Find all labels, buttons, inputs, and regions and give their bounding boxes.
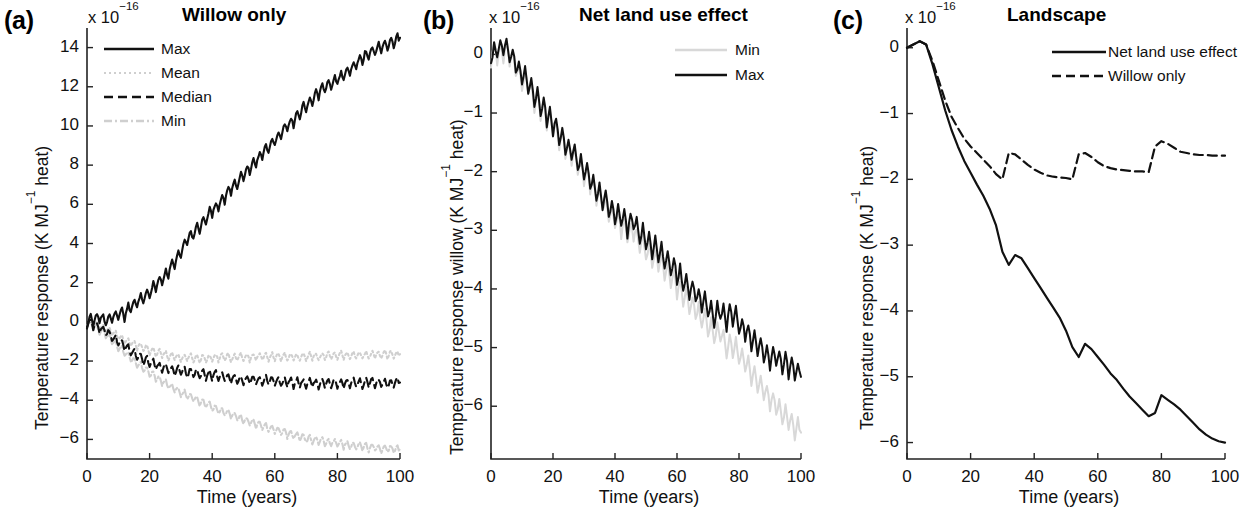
panel-b-exponent: x 10−16 bbox=[489, 6, 540, 27]
x-tick-label: 40 bbox=[1004, 467, 1064, 487]
panel-b-plot bbox=[491, 28, 801, 459]
panel-b-title: Net land use effect bbox=[579, 4, 748, 26]
panel-b-letter: (b) bbox=[423, 6, 454, 35]
panel-c-xlabel: Time (years) bbox=[919, 487, 1219, 508]
y-tick-label: −4 bbox=[35, 389, 79, 409]
y-tick-label: 0 bbox=[35, 311, 79, 331]
x-tick-label: 60 bbox=[647, 467, 707, 487]
x-tick-label: 80 bbox=[307, 467, 367, 487]
panel-c-title: Landscape bbox=[1007, 4, 1106, 26]
x-tick-label: 20 bbox=[941, 467, 1001, 487]
y-tick-label: 10 bbox=[35, 115, 79, 135]
y-tick-label: −5 bbox=[855, 366, 899, 386]
x-tick-label: 0 bbox=[877, 467, 937, 487]
y-tick-label: −2 bbox=[855, 168, 899, 188]
y-tick-label: −1 bbox=[855, 103, 899, 123]
axis-spine bbox=[87, 28, 400, 459]
axis-spine bbox=[907, 28, 1225, 459]
y-tick-label: −1 bbox=[439, 102, 483, 122]
panel-c-plot bbox=[907, 28, 1225, 459]
x-tick-label: 40 bbox=[182, 467, 242, 487]
y-tick-label: 8 bbox=[35, 154, 79, 174]
panel-c-letter: (c) bbox=[833, 6, 863, 35]
y-tick-label: −6 bbox=[855, 432, 899, 452]
x-tick-label: 80 bbox=[709, 467, 769, 487]
panel-a: (a) x 10−16 Willow only Temperature resp… bbox=[0, 0, 420, 525]
x-tick-label: 100 bbox=[1195, 467, 1249, 487]
y-tick-label: 6 bbox=[35, 193, 79, 213]
y-tick-label: 12 bbox=[35, 76, 79, 96]
figure-container: (a) x 10−16 Willow only Temperature resp… bbox=[0, 0, 1249, 525]
panel-a-xlabel: Time (years) bbox=[102, 487, 392, 508]
y-tick-label: −4 bbox=[855, 300, 899, 320]
y-tick-label: −3 bbox=[439, 219, 483, 239]
y-tick-label: −2 bbox=[439, 161, 483, 181]
series-line-max bbox=[87, 33, 400, 328]
y-tick-label: 0 bbox=[855, 37, 899, 57]
y-tick-label: −5 bbox=[439, 337, 483, 357]
panel-a-letter: (a) bbox=[4, 6, 34, 35]
series-line-mean bbox=[87, 320, 400, 363]
panel-a-title: Willow only bbox=[182, 4, 286, 26]
y-tick-label: 0 bbox=[439, 43, 483, 63]
panel-a-exponent: x 10−16 bbox=[88, 6, 139, 27]
y-tick-label: 2 bbox=[35, 272, 79, 292]
y-tick-label: −6 bbox=[439, 395, 483, 415]
x-tick-label: 20 bbox=[120, 467, 180, 487]
y-tick-label: −4 bbox=[439, 278, 483, 298]
y-tick-label: −2 bbox=[35, 350, 79, 370]
x-tick-label: 60 bbox=[245, 467, 305, 487]
x-tick-label: 20 bbox=[523, 467, 583, 487]
series-line-max bbox=[491, 39, 801, 381]
panel-c-exponent: x 10−16 bbox=[905, 6, 956, 27]
y-tick-label: −3 bbox=[855, 234, 899, 254]
series-line-net-land-use-effect bbox=[907, 41, 1225, 442]
series-line-min bbox=[87, 320, 400, 454]
panel-a-plot bbox=[87, 28, 400, 459]
panel-c: (c) x 10−16 Landscape Temperature respon… bbox=[829, 0, 1249, 525]
x-tick-label: 80 bbox=[1131, 467, 1191, 487]
panel-b: (b) x 10−16 Net land use effect Temperat… bbox=[419, 0, 834, 525]
panel-c-ylabel: Temperature response (K MJ−1 heat) bbox=[855, 146, 878, 430]
series-line-willow-only bbox=[907, 41, 1225, 179]
x-tick-label: 0 bbox=[57, 467, 117, 487]
y-tick-label: 4 bbox=[35, 233, 79, 253]
y-tick-label: −6 bbox=[35, 428, 79, 448]
x-tick-label: 40 bbox=[585, 467, 645, 487]
y-tick-label: 14 bbox=[35, 37, 79, 57]
x-tick-label: 100 bbox=[771, 467, 831, 487]
series-line-median bbox=[87, 320, 400, 390]
x-tick-label: 0 bbox=[461, 467, 521, 487]
x-tick-label: 60 bbox=[1068, 467, 1128, 487]
panel-b-xlabel: Time (years) bbox=[504, 487, 794, 508]
